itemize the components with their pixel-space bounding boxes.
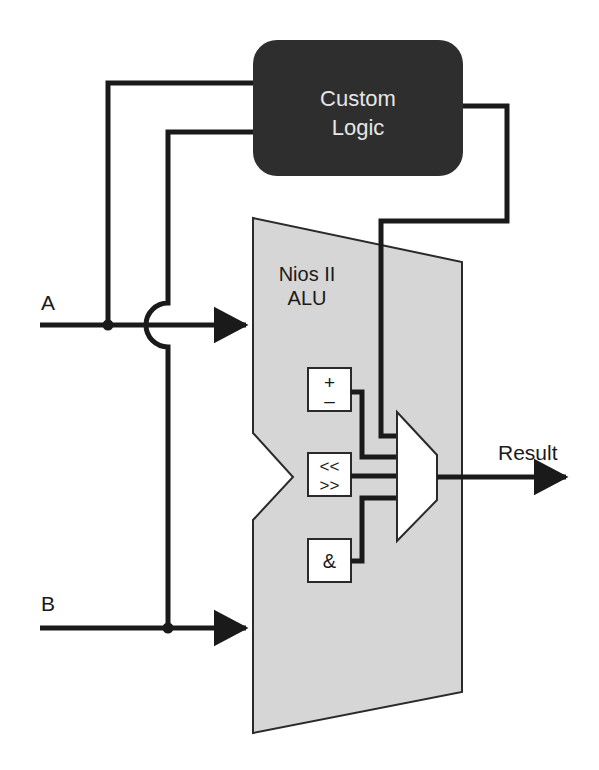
custom-logic-label-line2: Logic [332, 115, 385, 140]
junction-b [163, 623, 174, 634]
input-a-label: A [41, 291, 55, 314]
result-label: Result [498, 441, 558, 464]
wire-b-to-custom-logic [146, 132, 253, 628]
op-and-label: & [323, 550, 337, 572]
alu-label-line2: ALU [288, 287, 327, 309]
diagram-canvas: Custom Logic Nios II ALU A B + – << >> &… [0, 0, 599, 770]
op-add-sub-line2: – [324, 390, 335, 411]
input-b-label: B [41, 592, 55, 615]
op-add-sub-box: + – [308, 368, 351, 411]
wire-a-to-custom-logic [108, 83, 253, 325]
custom-logic-label-line1: Custom [320, 86, 396, 111]
op-and-box: & [308, 539, 351, 582]
alu-label-line1: Nios II [279, 263, 336, 285]
alu-diagram: Custom Logic Nios II ALU A B + – << >> &… [0, 0, 599, 770]
junction-a [103, 320, 114, 331]
op-shift-line1: << [320, 457, 340, 476]
op-shift-box: << >> [308, 453, 351, 496]
op-shift-line2: >> [320, 476, 340, 495]
